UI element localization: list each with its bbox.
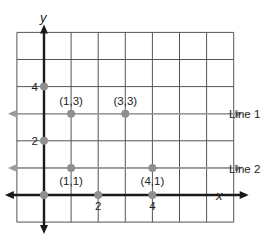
line-2-label: Line 2 — [229, 163, 260, 175]
data-point — [148, 164, 156, 172]
point-label: (1,1) — [59, 175, 83, 187]
data-point — [67, 110, 75, 118]
x-tick-label: 2 — [95, 200, 101, 212]
x-axis-arrow-right-icon — [240, 191, 249, 199]
data-point — [148, 191, 156, 199]
point-label: (4,1) — [141, 175, 165, 187]
x-axis-arrow-left-icon — [5, 191, 14, 199]
x-axis-label: x — [215, 188, 223, 203]
y-tick-label: 4 — [32, 81, 39, 93]
grid — [17, 32, 234, 222]
line-1-label: Line 1 — [229, 108, 260, 120]
data-point — [67, 164, 75, 172]
data-point — [40, 191, 48, 199]
data-point — [40, 137, 48, 145]
x-tick-label: 4 — [149, 200, 156, 212]
point-label: (3,3) — [113, 95, 137, 107]
axes — [5, 24, 249, 234]
data-point — [121, 110, 129, 118]
data-point — [40, 83, 48, 91]
y-axis-arrow-up-icon — [40, 24, 48, 33]
point-label: (1,3) — [59, 95, 83, 107]
arrow-left-icon — [8, 164, 16, 171]
y-axis-label: y — [39, 10, 48, 25]
data-point — [94, 191, 102, 199]
y-axis-arrow-down-icon — [40, 225, 48, 234]
coordinate-plane: x y Line 1 Line 2 2424(1,3)(3,3)(1,1)(4,… — [0, 0, 272, 239]
y-tick-label: 2 — [32, 135, 38, 147]
arrow-left-icon — [8, 110, 16, 117]
labels: x y Line 1 Line 2 2424(1,3)(3,3)(1,1)(4,… — [32, 10, 261, 212]
